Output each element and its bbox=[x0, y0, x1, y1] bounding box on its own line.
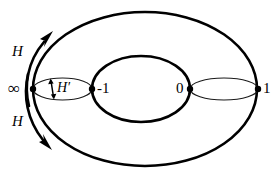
label-h-prime: H′ bbox=[57, 81, 70, 95]
label-h-bottom: H bbox=[12, 114, 23, 129]
label-zero: 0 bbox=[176, 81, 184, 96]
h-top-arrow-icon bbox=[27, 31, 53, 106]
label-minus-one: -1 bbox=[97, 81, 110, 96]
point-dot-one bbox=[255, 86, 261, 92]
label-one: 1 bbox=[263, 81, 271, 96]
torus-diagram-svg bbox=[0, 0, 277, 176]
h-prime-arrow-icon bbox=[48, 79, 56, 100]
label-infinity: ∞ bbox=[8, 80, 20, 97]
point-dot-zero bbox=[187, 86, 193, 92]
label-h-top: H bbox=[12, 44, 23, 59]
figure-container: H H H′ ∞ -1 0 1 bbox=[0, 0, 277, 176]
point-dot-minus-one bbox=[89, 86, 95, 92]
right-small-ellipse bbox=[190, 78, 258, 100]
point-dot-infinity bbox=[30, 86, 36, 92]
